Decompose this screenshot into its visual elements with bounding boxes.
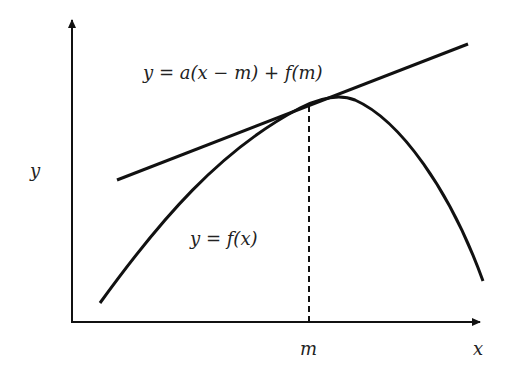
x-axis-label: x: [473, 338, 483, 359]
y-axis-label: y: [29, 160, 41, 181]
curve-equation-label: y = f(x): [189, 228, 258, 249]
tangent-equation-label: y = a(x − m) + f(m): [142, 62, 323, 83]
x-tick-label-m: m: [300, 338, 317, 359]
diagram-canvas: y = a(x − m) + f(m) y = f(x) y m x: [0, 0, 515, 381]
curve-f: [100, 97, 483, 303]
